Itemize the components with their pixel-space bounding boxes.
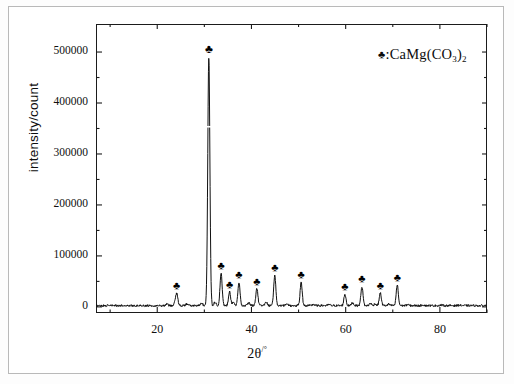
x-axis-title: 2θ/° — [0, 345, 514, 362]
legend: ♣:CaMg(CO3)2 — [378, 46, 467, 64]
peak-club-icon: ♣ — [373, 280, 387, 291]
peak-club-icon: ♣ — [170, 280, 184, 291]
y-tick-label: 0 — [82, 299, 88, 311]
peak-club-icon: ♣ — [202, 44, 216, 55]
peak-club-icon: ♣ — [390, 272, 404, 283]
peak-club-icon: ♣ — [214, 260, 228, 271]
peak-club-icon: ♣ — [338, 281, 352, 292]
x-tick-label: 40 — [231, 322, 271, 337]
x-tick-label: 80 — [420, 322, 460, 337]
plot-frame — [96, 24, 487, 313]
peak-club-icon: ♣ — [294, 269, 308, 280]
y-tick-label: 500000 — [54, 44, 89, 56]
y-tick-label: 200000 — [54, 197, 89, 209]
x-axis-tick-labels: 20406080 — [0, 322, 514, 344]
peak-club-icon: ♣ — [232, 269, 246, 280]
peak-club-icon: ♣ — [268, 262, 282, 273]
y-tick-label: 400000 — [54, 95, 89, 107]
y-tick-label: 300000 — [54, 146, 89, 158]
y-tick-label: 100000 — [54, 248, 89, 260]
x-tick-label: 20 — [137, 322, 177, 337]
legend-formula-lead: CaMg(CO — [390, 46, 453, 62]
x-axis-title-unit: /° — [261, 345, 266, 354]
legend-formula-sub2: 2 — [462, 54, 467, 64]
x-axis-title-symbol: 2θ — [247, 346, 261, 361]
x-tick-label: 60 — [326, 322, 366, 337]
peak-club-icon: ♣ — [355, 273, 369, 284]
figure-canvas: 0100000200000300000400000500000 20406080… — [0, 0, 514, 384]
peak-club-icon: ♣ — [250, 276, 264, 287]
y-axis-title: intensity/count — [26, 33, 41, 223]
